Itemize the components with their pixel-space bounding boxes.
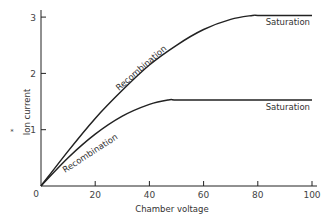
annotation-lower-saturation: Saturation xyxy=(266,102,310,112)
y-axis-label: Ion current xyxy=(22,88,32,135)
annotation-upper-recombination: Recombination xyxy=(114,43,169,92)
star-mark: * xyxy=(10,128,14,136)
origin-label: 0 xyxy=(33,189,39,199)
x-tick-label: 20 xyxy=(89,190,101,200)
x-tick-label: 60 xyxy=(198,190,210,200)
lower-curve xyxy=(41,100,312,186)
x-tick-label: 100 xyxy=(303,190,320,200)
annotation-upper-saturation: Saturation xyxy=(266,17,310,27)
y-tick-label: 3 xyxy=(30,13,36,23)
x-tick-label: 40 xyxy=(144,190,156,200)
x-axis-label: Chamber voltage xyxy=(135,204,208,214)
y-tick-label: 2 xyxy=(30,69,36,79)
x-tick-label: 80 xyxy=(252,190,264,200)
chart: 1 2 3 0 20 40 60 80 100 Chamber voltage … xyxy=(0,0,333,223)
